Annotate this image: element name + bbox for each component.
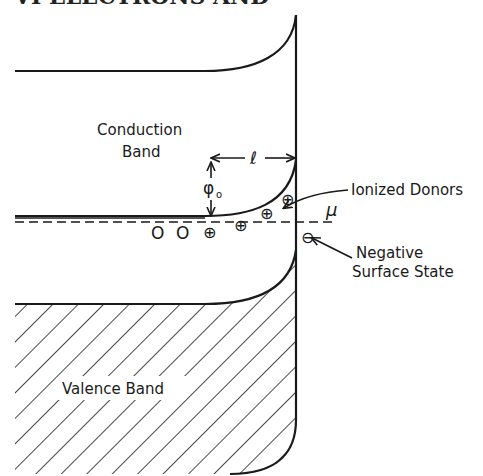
fermi-level-mu-label: μ xyxy=(325,199,337,220)
depletion-length-label: ℓ xyxy=(249,148,257,168)
valence-band-edge xyxy=(15,250,296,304)
ionized-donors-label: Ionized Donors xyxy=(351,181,463,199)
conduction-band-upper-edge xyxy=(15,15,296,71)
ionized-donor-symbol: ⊕ xyxy=(203,223,216,242)
neutral-donor-symbol: O xyxy=(176,223,189,243)
negative-surface-label-line1: Negative xyxy=(356,244,423,262)
conduction-band-edge xyxy=(15,160,296,216)
ionized-donor-symbol: ⊕ xyxy=(260,204,273,223)
negative-surface-state-leader-arrow xyxy=(312,238,352,258)
valence-band-region xyxy=(15,250,296,474)
barrier-height-subscript: o xyxy=(216,189,222,200)
surface-state-label-line2: Surface State xyxy=(352,263,454,281)
neutral-donor-symbol: O xyxy=(151,223,164,243)
band-diagram: VI ELECTRONS AND Conduction Band Valence… xyxy=(0,0,483,476)
conduction-band-label-line2: Band xyxy=(122,143,161,161)
page-header: VI ELECTRONS AND xyxy=(13,0,269,9)
conduction-band-label-line1: Conduction xyxy=(97,121,182,139)
valence-band-label: Valence Band xyxy=(62,380,164,398)
ionized-donor-symbol: ⊕ xyxy=(234,216,247,235)
barrier-height-phi-label: φ xyxy=(203,178,214,198)
